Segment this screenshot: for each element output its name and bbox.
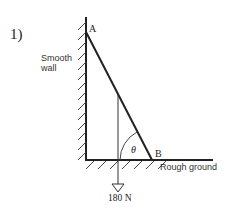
ladder: [86, 32, 152, 160]
label-weight: 180 N: [108, 193, 132, 203]
smooth-wall: [78, 17, 86, 160]
weight-force: [112, 94, 124, 192]
label-point-a: A: [89, 23, 97, 34]
problem-number: 1): [10, 26, 23, 43]
ladder-diagram: 1): [0, 0, 244, 224]
label-ground: Rough ground: [160, 162, 217, 172]
label-wall-line1: Smooth: [41, 53, 72, 63]
label-wall-line2: wall: [40, 63, 57, 73]
label-angle-theta: θ: [131, 144, 136, 155]
label-point-b: B: [155, 148, 162, 159]
